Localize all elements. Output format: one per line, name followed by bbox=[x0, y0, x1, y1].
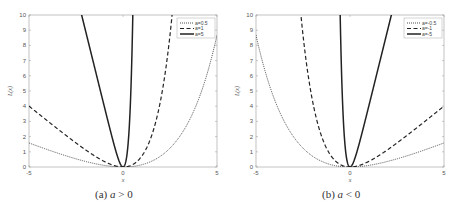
caption-b-var: a bbox=[338, 188, 344, 200]
x-axis-label: x bbox=[121, 177, 125, 183]
y-tick-label: 1 bbox=[250, 149, 254, 155]
x-tick-label: 5 bbox=[442, 170, 446, 176]
y-tick-label: 10 bbox=[246, 12, 253, 18]
x-tick-label: -5 bbox=[26, 170, 32, 176]
y-tick-label: 3 bbox=[250, 118, 254, 124]
y-tick-label: 2 bbox=[250, 134, 254, 140]
y-tick-label: 4 bbox=[23, 103, 27, 109]
y-axis-label: L(x) bbox=[7, 86, 14, 97]
caption-a: (a) a > 0 bbox=[95, 188, 133, 200]
x-tick-label: -5 bbox=[253, 170, 259, 176]
x-tick-label: 5 bbox=[215, 170, 219, 176]
y-tick-label: 5 bbox=[23, 88, 27, 94]
y-tick-label: 7 bbox=[250, 58, 254, 64]
chart-panel-b: 012345678910-505xL(x)a=-0.5a=-1a=-5 bbox=[234, 0, 446, 183]
y-tick-label: 6 bbox=[250, 73, 254, 79]
figure: 012345678910-505xL(x)a=0.5a=1a=501234567… bbox=[0, 0, 454, 213]
chart-panel-a: 012345678910-505xL(x)a=0.5a=1a=5 bbox=[7, 0, 219, 183]
caption-b-prefix: (b) bbox=[322, 188, 335, 200]
y-tick-label: 6 bbox=[23, 73, 27, 79]
y-tick-label: 2 bbox=[23, 134, 27, 140]
y-tick-label: 4 bbox=[250, 103, 254, 109]
y-axis-label: L(x) bbox=[234, 86, 241, 97]
y-tick-label: 8 bbox=[23, 42, 27, 48]
legend: a=0.5a=1a=5 bbox=[177, 18, 215, 38]
y-tick-label: 8 bbox=[250, 42, 254, 48]
x-axis-label: x bbox=[348, 177, 352, 183]
caption-b: (b) a < 0 bbox=[322, 188, 360, 200]
y-tick-label: 9 bbox=[250, 27, 254, 33]
caption-a-prefix: (a) bbox=[95, 188, 107, 200]
x-tick-label: 0 bbox=[121, 170, 125, 176]
y-tick-label: 9 bbox=[23, 27, 27, 33]
legend-entry: a=5 bbox=[195, 31, 204, 37]
y-tick-label: 7 bbox=[23, 58, 27, 64]
y-tick-label: 5 bbox=[250, 88, 254, 94]
caption-a-var: a bbox=[110, 188, 116, 200]
legend-entry: a=-5 bbox=[422, 31, 432, 37]
caption-b-rel: < 0 bbox=[346, 188, 360, 200]
y-tick-label: 10 bbox=[19, 12, 26, 18]
caption-a-rel: > 0 bbox=[118, 188, 132, 200]
x-tick-label: 0 bbox=[348, 170, 352, 176]
legend: a=-0.5a=-1a=-5 bbox=[404, 18, 442, 38]
y-tick-label: 3 bbox=[23, 118, 27, 124]
y-tick-label: 1 bbox=[23, 149, 27, 155]
